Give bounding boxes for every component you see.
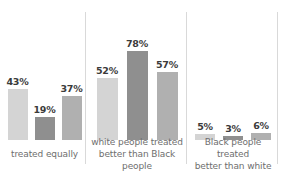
bar-slot-g3-s2[interactable]: 3% bbox=[221, 38, 245, 140]
bar-value-g3-s3: 6% bbox=[253, 120, 269, 131]
group-separator-2 bbox=[186, 12, 187, 164]
group-label-1: treated equally bbox=[4, 148, 85, 160]
bar-g2-s3[interactable] bbox=[157, 72, 178, 140]
bar-value-g1-s3: 37% bbox=[60, 83, 82, 94]
group-label-2-line-1: white people treated bbox=[88, 136, 186, 148]
bar-value-g1-s1: 43% bbox=[6, 76, 28, 87]
bar-g2-s2[interactable] bbox=[127, 51, 148, 140]
bar-value-g2-s3: 57% bbox=[156, 59, 178, 70]
bar-g1-s3[interactable] bbox=[62, 96, 82, 140]
group-label-3-line-2: better than white bbox=[189, 160, 277, 172]
plot-area-group-3: 5% 3% 6% bbox=[189, 38, 277, 140]
bars-group-2: 52% 78% 57% bbox=[88, 38, 186, 140]
bar-value-g2-s2: 78% bbox=[126, 38, 148, 49]
bar-slot-g2-s2[interactable]: 78% bbox=[124, 38, 150, 140]
bar-slot-g1-s2[interactable]: 19% bbox=[33, 38, 57, 140]
bars-group-3: 5% 3% 6% bbox=[189, 38, 277, 140]
bar-g1-s2[interactable] bbox=[35, 117, 55, 140]
bars-group-1: 43% 19% 37% bbox=[4, 38, 85, 140]
bar-slot-g1-s3[interactable]: 37% bbox=[60, 38, 84, 140]
bar-group-treated-equally: 43% 19% 37% treated equally bbox=[4, 0, 85, 178]
bar-slot-g3-s1[interactable]: 5% bbox=[193, 38, 217, 140]
group-label-2-line-2: better than Black people bbox=[88, 148, 186, 172]
bar-value-g3-s1: 5% bbox=[197, 121, 213, 132]
bar-slot-g1-s1[interactable]: 43% bbox=[6, 38, 30, 140]
bar-slot-g2-s1[interactable]: 52% bbox=[94, 38, 120, 140]
plot-area-group-2: 52% 78% 57% bbox=[88, 38, 186, 140]
bar-value-g1-s2: 19% bbox=[33, 104, 55, 115]
bar-slot-g3-s3[interactable]: 6% bbox=[249, 38, 273, 140]
group-label-1-line-1: treated equally bbox=[4, 148, 85, 160]
bar-value-g3-s2: 3% bbox=[225, 123, 241, 134]
bar-group-black-better: 5% 3% 6% Black people treated better tha… bbox=[189, 0, 277, 178]
bar-g1-s1[interactable] bbox=[8, 89, 28, 140]
bar-g2-s1[interactable] bbox=[97, 78, 118, 140]
bar-value-g2-s1: 52% bbox=[96, 65, 118, 76]
group-separator-3 bbox=[277, 12, 278, 164]
group-label-3-line-1: Black people treated bbox=[189, 136, 277, 160]
group-label-3: Black people treated better than white bbox=[189, 136, 277, 172]
bar-slot-g2-s3[interactable]: 57% bbox=[154, 38, 180, 140]
grouped-bar-chart: 43% 19% 37% treated equally 52% bbox=[0, 0, 294, 178]
group-separator-1 bbox=[85, 12, 86, 164]
bar-group-white-better: 52% 78% 57% white people treated better … bbox=[88, 0, 186, 178]
group-label-2: white people treated better than Black p… bbox=[88, 136, 186, 172]
plot-area-group-1: 43% 19% 37% bbox=[4, 38, 85, 140]
